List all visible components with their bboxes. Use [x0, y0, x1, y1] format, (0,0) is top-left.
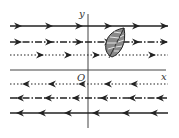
arrowhead-left-icon [48, 81, 56, 88]
arrowhead-left-icon [128, 95, 136, 102]
y-axis-label: y [78, 8, 85, 19]
arrowhead-right-icon [36, 52, 44, 59]
x-axis-label: x [161, 71, 167, 82]
wind-field-figure: y O x [0, 0, 179, 138]
arrowhead-right-icon [64, 52, 72, 59]
arrowhead-right-icon [132, 39, 140, 46]
arrowhead-right-icon [148, 52, 156, 59]
arrowhead-right-icon [92, 52, 100, 59]
leaf-icon [106, 28, 125, 58]
arrowhead-left-icon [104, 81, 112, 88]
arrowhead-right-icon [45, 39, 53, 46]
origin-label: O [77, 72, 85, 83]
